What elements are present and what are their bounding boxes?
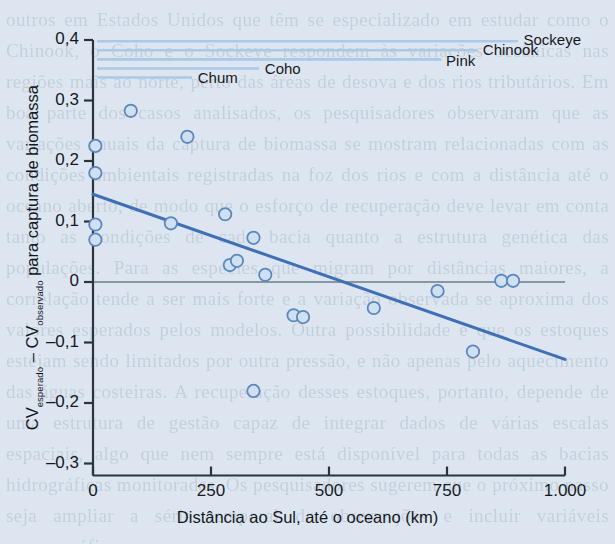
data-point xyxy=(89,140,101,152)
legend-label-coho: Coho xyxy=(265,60,301,77)
x-axis-title: Distância ao Sul, até o oceano (km) xyxy=(0,508,615,527)
y-tick-label-0: –0,3 xyxy=(14,453,79,473)
y-tick-label-6: 0,3 xyxy=(14,90,79,110)
data-point xyxy=(231,255,243,267)
y-tick-label-1: –0,2 xyxy=(14,392,79,412)
data-point xyxy=(219,208,231,220)
data-point xyxy=(181,131,193,143)
x-tick-label-4: 1.000 xyxy=(520,481,610,501)
data-point xyxy=(165,217,177,229)
y-axis-title-tail: para captura de biomassa xyxy=(23,85,41,280)
y-tick-label-3: 0 xyxy=(14,271,79,291)
data-point xyxy=(495,275,507,287)
data-point xyxy=(247,232,259,244)
legend-label-chinook: Chinook xyxy=(483,41,538,58)
trendline-group xyxy=(93,194,565,359)
data-point xyxy=(368,302,380,314)
legend-label-chum: Chum xyxy=(198,69,238,86)
data-point xyxy=(507,275,519,287)
y-axis-title: CVesperado – CVobservado para captura de… xyxy=(23,73,44,443)
x-tick-label-1: 250 xyxy=(166,481,256,501)
legend-label-pink: Pink xyxy=(446,52,475,69)
trend-line xyxy=(93,194,565,359)
data-points-group xyxy=(89,105,519,398)
data-point xyxy=(247,385,259,397)
data-point xyxy=(89,218,101,230)
data-point xyxy=(467,345,479,357)
x-tick-label-0: 0 xyxy=(48,481,138,501)
data-point xyxy=(297,311,309,323)
data-point xyxy=(259,269,271,281)
data-point xyxy=(89,167,101,179)
y-tick-label-2: –0,1 xyxy=(14,332,79,352)
y-tick-label-4: 0,1 xyxy=(14,211,79,231)
data-point xyxy=(431,285,443,297)
x-tick-label-3: 750 xyxy=(402,481,492,501)
data-point xyxy=(125,105,137,117)
x-tick-label-2: 500 xyxy=(284,481,374,501)
data-point xyxy=(89,233,101,245)
y-tick-label-7: 0,4 xyxy=(14,29,79,49)
y-tick-label-5: 0,2 xyxy=(14,150,79,170)
chart-canvas xyxy=(0,0,615,544)
axes-group xyxy=(84,40,565,476)
